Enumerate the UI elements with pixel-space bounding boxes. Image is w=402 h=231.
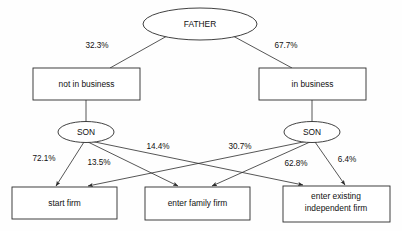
node-son-left-label: SON — [77, 127, 95, 137]
node-enter-existing-firm-label-line2: independent firm — [305, 203, 367, 213]
diagram-canvas: FATHER not in business in business SON S… — [0, 0, 402, 231]
edge-label-62-8: 62.8% — [284, 159, 307, 168]
edge-label-72-1: 72.1% — [32, 154, 55, 163]
edge-label-30-7: 30.7% — [228, 142, 251, 151]
edge-label-13-5: 13.5% — [87, 158, 110, 167]
node-father-label: FATHER — [184, 19, 216, 29]
edge-label-67-7: 67.7% — [274, 41, 297, 50]
node-in-business-label: in business — [292, 79, 334, 89]
edge-label-6-4: 6.4% — [338, 155, 357, 164]
node-enter-existing-firm-label-line1: enter existing — [311, 191, 361, 201]
edge-label-14-4: 14.4% — [146, 142, 169, 151]
node-not-in-business-label: not in business — [59, 79, 115, 89]
node-start-firm-label: start firm — [48, 198, 81, 208]
flow-diagram: FATHER not in business in business SON S… — [0, 0, 402, 231]
edge-son-left-to-enter-existing-firm — [90, 141, 303, 185]
edge-son-left-to-start-firm — [56, 142, 84, 186]
edge-father-to-not-in-business — [110, 36, 167, 68]
edge-label-32-3: 32.3% — [85, 41, 108, 50]
node-enter-family-firm-label: enter family firm — [168, 198, 228, 208]
node-son-right-label: SON — [303, 127, 321, 137]
